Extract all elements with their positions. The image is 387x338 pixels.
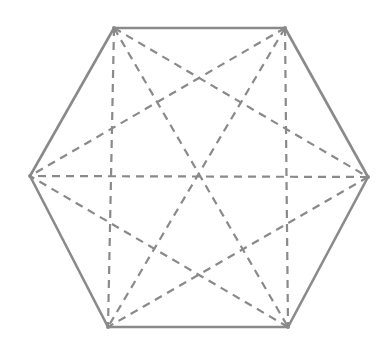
hexagon-diagram	[0, 0, 387, 338]
diagonals-layer	[30, 28, 368, 327]
vertex-E	[106, 325, 110, 329]
diagonal-AE	[108, 28, 114, 327]
diagonal-BF	[30, 28, 285, 176]
diagonal-CF	[30, 176, 368, 177]
edge-FA	[30, 28, 114, 176]
hexagon-diagram-svg	[0, 0, 387, 338]
vertex-F	[28, 174, 32, 178]
diagonal-AD	[114, 28, 288, 327]
diagonal-BD	[285, 28, 288, 327]
vertex-C	[366, 175, 370, 179]
vertex-A	[112, 26, 116, 30]
edge-BC	[285, 28, 368, 177]
vertex-D	[286, 325, 290, 329]
vertex-B	[283, 26, 287, 30]
